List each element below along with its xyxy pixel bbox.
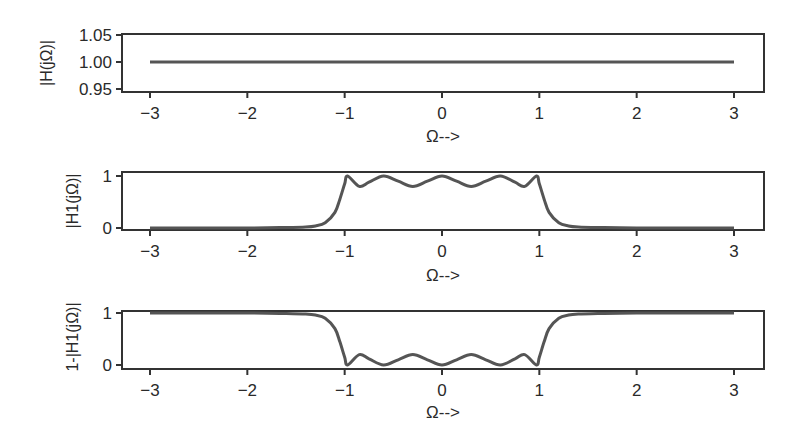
data-line bbox=[150, 176, 734, 228]
x-tick-label: −2 bbox=[238, 242, 257, 261]
y-tick-label: 0.95 bbox=[79, 80, 112, 99]
panel-h-magnitude: 1.051.000.95 −3−2−10123 |H(jΩ)| Ω--> bbox=[38, 26, 764, 146]
panel-one-minus-h1: 10 −3−2−10123 1-|H1(jΩ)| Ω--> bbox=[64, 302, 764, 422]
y-tick-label: 1 bbox=[103, 304, 112, 323]
x-tick-label: 2 bbox=[632, 104, 641, 123]
y-tick-label: 1.00 bbox=[79, 53, 112, 72]
y-axis-label: |H1(jΩ)| bbox=[64, 174, 81, 229]
figure: 1.051.000.95 −3−2−10123 |H(jΩ)| Ω--> 10 … bbox=[0, 0, 798, 446]
y-tick-label: 0 bbox=[103, 356, 112, 375]
x-tick-label: −3 bbox=[140, 104, 159, 123]
x-tick-label: 2 bbox=[632, 381, 641, 400]
x-tick-label: −3 bbox=[140, 242, 159, 261]
x-tick-label: 1 bbox=[535, 104, 544, 123]
axes-box bbox=[122, 172, 764, 230]
y-axis-label: 1-|H1(jΩ)| bbox=[64, 302, 81, 371]
y-ticks: 10 bbox=[103, 167, 122, 238]
y-ticks: 10 bbox=[103, 304, 122, 375]
x-axis-label: Ω--> bbox=[426, 127, 460, 146]
y-tick-label: 0 bbox=[103, 219, 112, 238]
panel-h1-magnitude: 10 −3−2−10123 |H1(jΩ)| Ω--> bbox=[64, 167, 764, 285]
x-tick-label: 1 bbox=[535, 381, 544, 400]
x-tick-label: 3 bbox=[729, 242, 738, 261]
x-tick-label: −1 bbox=[335, 104, 354, 123]
x-tick-label: 0 bbox=[437, 104, 446, 123]
x-tick-label: 0 bbox=[437, 242, 446, 261]
data-line bbox=[150, 313, 734, 365]
axes-box bbox=[122, 311, 764, 369]
y-axis-label: |H(jΩ)| bbox=[38, 40, 55, 86]
x-axis-label: Ω--> bbox=[426, 403, 460, 422]
x-tick-label: −3 bbox=[140, 381, 159, 400]
x-ticks: −3−2−10123 bbox=[140, 92, 738, 123]
y-tick-label: 1.05 bbox=[79, 26, 112, 45]
y-ticks: 1.051.000.95 bbox=[79, 26, 122, 99]
x-tick-label: 2 bbox=[632, 242, 641, 261]
y-tick-label: 1 bbox=[103, 167, 112, 186]
x-tick-label: 0 bbox=[437, 381, 446, 400]
x-tick-label: 1 bbox=[535, 242, 544, 261]
x-axis-label: Ω--> bbox=[426, 266, 460, 285]
x-tick-label: −2 bbox=[238, 381, 257, 400]
x-ticks: −3−2−10123 bbox=[140, 230, 738, 261]
x-tick-label: −1 bbox=[335, 381, 354, 400]
x-tick-label: 3 bbox=[729, 104, 738, 123]
x-ticks: −3−2−10123 bbox=[140, 369, 738, 400]
x-tick-label: −2 bbox=[238, 104, 257, 123]
x-tick-label: −1 bbox=[335, 242, 354, 261]
x-tick-label: 3 bbox=[729, 381, 738, 400]
